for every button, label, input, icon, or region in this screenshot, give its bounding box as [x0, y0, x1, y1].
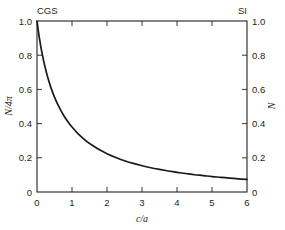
figure-container: CGS SI 0123456 00.20.40.60.81.0 00.20.40…: [0, 0, 285, 230]
y-tick-label-right: 0.2: [252, 152, 265, 163]
y-tick-label-left: 1.0: [19, 16, 32, 27]
y-tick-labels-right: 00.20.40.60.81.0: [252, 16, 265, 198]
y-axis-title-left: N/4π: [3, 95, 14, 116]
x-tick-label: 4: [174, 197, 179, 208]
y-tick-label-left: 0.8: [19, 50, 32, 61]
y-tick-label-left: 0.2: [19, 152, 32, 163]
x-tick-label: 2: [104, 197, 109, 208]
x-tick-label: 1: [69, 197, 74, 208]
x-tick-labels: 0123456: [34, 197, 249, 208]
x-axis-title: c/a: [136, 213, 148, 224]
y-tick-label-right: 1.0: [252, 16, 265, 27]
y-tick-label-right: 0.8: [252, 50, 265, 61]
y-tick-label-left: 0.6: [19, 84, 32, 95]
data-curve-demagnetizing-factor: [37, 21, 247, 179]
y-tick-label-left: 0.4: [19, 118, 32, 129]
corner-label-cgs: CGS: [37, 5, 58, 16]
y-tick-label-left: 0: [27, 187, 32, 198]
x-tick-label: 0: [34, 197, 39, 208]
y-tick-label-right: 0: [252, 187, 257, 198]
y-axis-title-right: N: [266, 101, 277, 110]
y-tick-label-right: 0.4: [252, 118, 265, 129]
x-tick-label: 6: [244, 197, 249, 208]
y-tick-label-right: 0.6: [252, 84, 265, 95]
y-tick-labels-left: 00.20.40.60.81.0: [19, 16, 32, 198]
plot-area: CGS SI 0123456 00.20.40.60.81.0 00.20.40…: [0, 0, 285, 230]
x-tick-label: 5: [209, 197, 214, 208]
x-tick-label: 3: [139, 197, 144, 208]
corner-label-si: SI: [238, 5, 247, 16]
